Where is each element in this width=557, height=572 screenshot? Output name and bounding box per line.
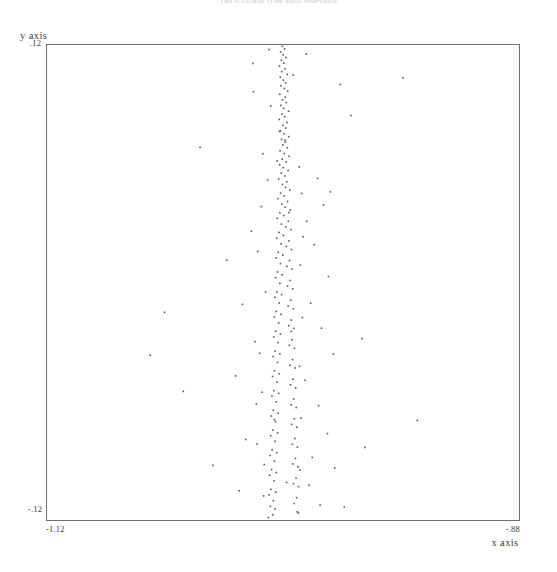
page-title: This is a scatter of the whole observati… [0, 0, 557, 5]
plot-frame [46, 44, 520, 521]
y-axis-tick-max: .12 [30, 38, 41, 48]
scatter-plot-figure: This is a scatter of the whole observati… [0, 0, 557, 572]
x-axis-tick-max: -.88 [506, 524, 520, 534]
x-axis-tick-min: -1.12 [46, 524, 65, 534]
x-axis-title: x axis [491, 537, 518, 548]
y-axis-tick-min: -.12 [28, 504, 42, 514]
